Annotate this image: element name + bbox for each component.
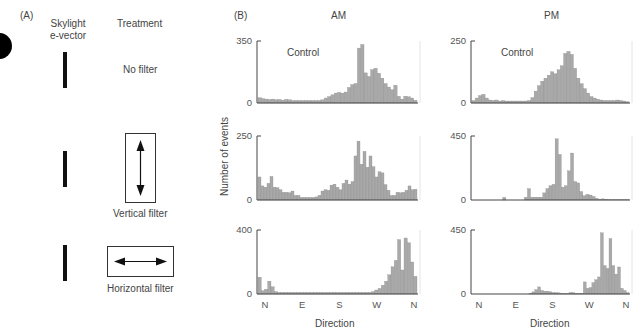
evector-header: Skylight e-vector (48, 18, 88, 42)
treatment-row1: No filter (123, 64, 157, 75)
svg-text:0: 0 (247, 288, 252, 299)
treatment-row3: Horizontal filter (107, 283, 174, 294)
vertical-filter-box (125, 133, 156, 203)
svg-text:0: 0 (461, 97, 466, 108)
svg-text:250: 250 (450, 35, 466, 46)
svg-text:S: S (549, 299, 555, 310)
vertical-arrow-icon (126, 134, 155, 202)
am-header: AM (331, 10, 346, 21)
svg-text:400: 400 (236, 224, 252, 235)
evector-bar-row2 (63, 151, 67, 187)
histogram-am-no-filter: 3500 (227, 35, 424, 131)
svg-text:450: 450 (450, 224, 466, 235)
evector-header-line1: Skylight (48, 18, 88, 30)
evector-bar-row3 (63, 245, 67, 281)
svg-text:N: N (411, 299, 418, 310)
histogram-pm-horizontal-filter: 4500NESWN (441, 224, 636, 322)
evector-bar-row1 (63, 52, 67, 88)
horizontal-arrow-icon (108, 247, 173, 276)
treatment-header: Treatment (117, 18, 162, 29)
svg-text:450: 450 (450, 130, 466, 141)
histogram-am-vertical-filter: 2500 (227, 130, 424, 228)
svg-text:S: S (336, 299, 342, 310)
pm-header: PM (544, 10, 559, 21)
horizontal-filter-box (107, 246, 174, 277)
svg-text:0: 0 (461, 194, 466, 205)
treatment-row2: Vertical filter (113, 208, 167, 219)
svg-text:E: E (299, 299, 305, 310)
black-dot-marker (0, 33, 12, 59)
svg-text:E: E (513, 299, 519, 310)
svg-text:N: N (623, 299, 630, 310)
histogram-pm-no-filter: 2500 (441, 35, 636, 131)
svg-text:0: 0 (247, 97, 252, 108)
panel-b-label: (B) (234, 10, 247, 21)
histogram-am-horizontal-filter: 4000NESWN (227, 224, 424, 322)
svg-text:W: W (585, 299, 594, 310)
histogram-pm-vertical-filter: 4500 (441, 130, 636, 228)
svg-text:0: 0 (247, 194, 252, 205)
svg-text:N: N (262, 299, 269, 310)
svg-text:W: W (372, 299, 381, 310)
panel-a-label: (A) (20, 10, 33, 21)
svg-text:250: 250 (236, 130, 252, 141)
svg-text:N: N (476, 299, 483, 310)
svg-text:0: 0 (461, 288, 466, 299)
svg-text:350: 350 (236, 35, 252, 46)
evector-header-line2: e-vector (48, 30, 88, 42)
